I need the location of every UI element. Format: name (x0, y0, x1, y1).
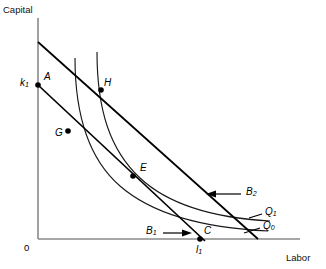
isocost-label-b1: B1 (146, 226, 157, 236)
isoquant-label-q0-base: Q (263, 220, 271, 231)
isoquant-label-q1: Q1 (265, 207, 277, 217)
point-marker-c (197, 236, 203, 242)
y-tick-k1-sub: 1 (25, 81, 29, 88)
origin-label: 0 (24, 243, 29, 253)
isoquant-isocost-figure: Capital Labor 0 k1 l1 A H G E C B2 B1 Q1… (0, 0, 326, 269)
leader-line-q1 (249, 214, 262, 218)
point-marker-e (130, 173, 136, 179)
point-label-c: C (204, 226, 211, 236)
point-label-e: E (140, 163, 147, 173)
arrowhead-b1 (182, 229, 192, 236)
isocost-line-b2 (38, 42, 258, 239)
isocost-label-b2-sub: 2 (253, 190, 257, 197)
isocost-label-b1-sub: 1 (153, 229, 157, 236)
point-marker-h (98, 87, 104, 93)
point-label-a: A (44, 72, 51, 82)
x-tick-l1: l1 (196, 245, 202, 255)
point-marker-g (65, 128, 71, 134)
isoquant-label-q0: Q0 (263, 221, 275, 231)
isoquant-label-q1-base: Q (265, 206, 273, 217)
point-label-h: H (104, 78, 111, 88)
isocost-line-b1 (38, 85, 205, 241)
x-tick-l1-sub: 1 (198, 248, 202, 255)
isocost-label-b1-base: B (146, 225, 153, 236)
isoquant-label-q0-sub: 0 (271, 224, 275, 231)
point-marker-a (35, 82, 41, 88)
y-axis-label: Capital (3, 5, 33, 15)
isoquant-curve-q1 (97, 52, 270, 221)
isocost-label-b2-base: B (246, 186, 253, 197)
x-axis-label: Labor (286, 253, 310, 263)
isocost-label-b2: B2 (246, 187, 257, 197)
y-tick-k1: k1 (20, 78, 29, 88)
figure-canvas (0, 0, 326, 269)
point-label-g: G (55, 128, 63, 138)
isoquant-label-q1-sub: 1 (273, 210, 277, 217)
